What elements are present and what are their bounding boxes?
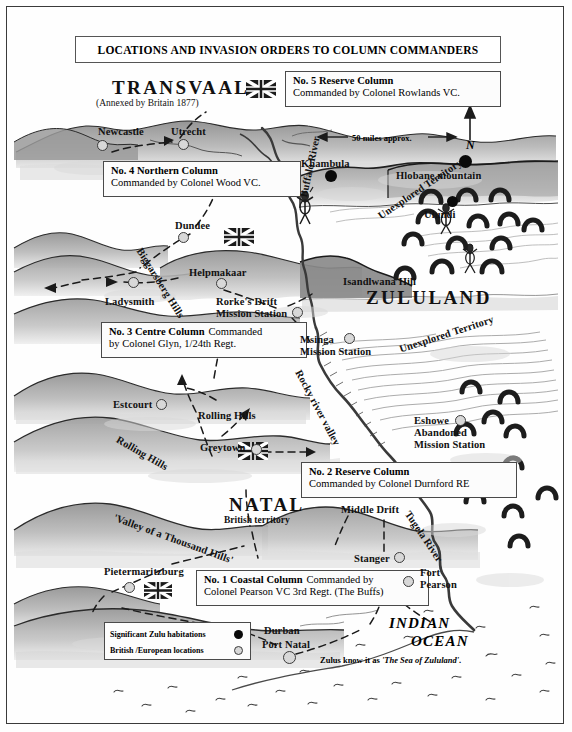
- place-label-ulundi: Ulundi: [424, 209, 456, 220]
- order-box-no5[interactable]: No. 5 Reserve Column Commanded by Colone…: [285, 71, 501, 107]
- place-label-dundee: Dundee: [175, 220, 210, 231]
- order-no2-title: No. 2 Reserve Column: [309, 466, 510, 477]
- place-label-utrecht: Utrecht: [171, 126, 206, 137]
- place-dot-ladysmith[interactable]: [128, 277, 139, 288]
- place-label-stanger: Stanger: [354, 553, 390, 564]
- union-jack-flag-pietermaritzburg: [144, 582, 172, 599]
- region-sublabel-natal: British territory: [224, 516, 290, 526]
- place-dot-dundee[interactable]: [178, 232, 189, 243]
- place-dot-fort-pearson[interactable]: [403, 576, 414, 587]
- place-label-rorkes-drift-line1: Rorke's Drift: [216, 296, 277, 307]
- place-dot-stanger[interactable]: [394, 552, 405, 563]
- place-label-eshowe-line3: Mission Station: [414, 439, 485, 450]
- place-dot-durban[interactable]: [283, 651, 296, 664]
- place-label-msinga-line2: Mission Station: [300, 346, 371, 357]
- place-label-middle-drift: Middle Drift: [341, 504, 399, 515]
- place-label-eshowe-line1: Eshowe: [414, 415, 449, 426]
- legend-symbol-zulu: [230, 630, 246, 639]
- place-dot-pietermaritzburg[interactable]: [124, 582, 135, 593]
- compass-north-label: N: [466, 138, 475, 153]
- legend-dot-british: [234, 646, 243, 655]
- order-no5-title: No. 5 Reserve Column: [293, 75, 494, 86]
- order-no3-title: No. 3 Centre Column: [109, 326, 204, 337]
- place-dot-eshowe[interactable]: [455, 415, 466, 426]
- legend-symbol-british: [230, 646, 246, 655]
- place-label-estcourt: Estcourt: [113, 399, 152, 410]
- invasion-map: LOCATIONS AND INVASION ORDERS TO COLUMN …: [0, 0, 572, 732]
- sea-of-zululand-note: Zulus know it as 'The Sea of Zululand'.: [320, 655, 461, 665]
- place-label-msinga: Msinga Mission Station: [300, 334, 378, 358]
- order-no4-commander: Commanded by Colonel Wood VC.: [111, 177, 294, 188]
- map-legend: Significant Zulu habitations British /Eu…: [104, 622, 251, 660]
- place-label-durban: Durban: [264, 625, 300, 636]
- order-box-no1[interactable]: No. 1 Coastal ColumnCommanded by Colonel…: [196, 570, 429, 606]
- place-label-greytown: Greytown: [200, 442, 246, 453]
- place-dot-rorkes-drift[interactable]: [292, 307, 303, 318]
- order-box-no3[interactable]: No. 3 Centre ColumnCommanded by Colonel …: [101, 322, 307, 358]
- sea-note-suffix: .: [459, 655, 461, 665]
- order-no1-title-tail: Commanded by: [307, 574, 374, 585]
- place-dot-estcourt[interactable]: [156, 399, 167, 410]
- place-dot-helpmakaar[interactable]: [216, 278, 227, 289]
- union-jack-flag-transvaal: [246, 80, 276, 98]
- order-no1-commander: Colonel Pearson VC 3rd Regt. (The Buffs): [204, 586, 422, 597]
- place-label-isandlwana: Isandlwana Hill: [343, 276, 416, 287]
- order-box-no2[interactable]: No. 2 Reserve Column Commanded by Colone…: [301, 462, 517, 498]
- union-jack-flag-natal-north: [224, 228, 254, 246]
- place-label-msinga-line1: Msinga: [300, 334, 334, 345]
- region-label-natal: NATAL: [229, 495, 305, 515]
- legend-row-zulu: Significant Zulu habitations: [110, 626, 246, 642]
- legend-label-zulu: Significant Zulu habitations: [110, 630, 230, 639]
- place-label-rorkes-drift: Rorke's Drift Mission Station: [216, 296, 294, 320]
- place-label-newcastle: Newcastle: [98, 126, 144, 137]
- place-label-fort-pearson-line1: Fort: [420, 567, 440, 578]
- order-box-no4[interactable]: No. 4 Northern Column Commanded by Colon…: [103, 161, 301, 197]
- place-label-pietermaritzburg: Pietermaritzburg: [104, 566, 184, 577]
- region-label-zululand: ZULULAND: [366, 288, 492, 308]
- legend-label-british: British /European locations: [110, 646, 230, 655]
- order-no5-commander: Commanded by Colonel Rowlands VC.: [293, 87, 494, 98]
- ocean-label-line1: INDIAN: [389, 615, 469, 632]
- place-label-rorkes-drift-line2: Mission Station: [216, 308, 287, 319]
- place-dot-khambula[interactable]: [325, 170, 337, 182]
- order-no3-commander: by Colonel Glyn, 1/24th Regt.: [109, 338, 300, 349]
- region-label-transvaal: TRANSVAAL: [112, 78, 249, 98]
- place-label-port-natal: Port Natal: [262, 639, 310, 650]
- order-no3-title-tail: Commanded: [208, 326, 262, 337]
- place-dot-utrecht[interactable]: [178, 139, 189, 150]
- page-title: LOCATIONS AND INVASION ORDERS TO COLUMN …: [98, 44, 479, 56]
- sea-note-name: 'The Sea of Zululand': [382, 655, 459, 665]
- scale-label: 50 miles approx.: [352, 133, 412, 143]
- place-label-eshowe-line2: Abandoned: [414, 427, 467, 438]
- place-dot-msinga[interactable]: [344, 333, 355, 344]
- place-label-eshowe: Eshowe Abandoned Mission Station: [414, 415, 490, 450]
- place-label-helpmakaar: Helpmakaar: [189, 267, 247, 278]
- place-label-fort-pearson: Fort Pearson: [420, 567, 464, 591]
- map-frame: [6, 6, 564, 724]
- sea-note-prefix: Zulus know it as: [320, 655, 382, 665]
- place-dot-greytown[interactable]: [251, 444, 262, 455]
- region-sublabel-transvaal: (Annexed by Britain 1877): [96, 99, 199, 109]
- place-label-fort-pearson-line2: Pearson: [420, 579, 457, 590]
- place-dot-hlobane-south[interactable]: [447, 196, 458, 207]
- feature-label-rolling-hills-1: Rolling Hills: [198, 410, 256, 421]
- place-label-ladysmith: Ladysmith: [105, 296, 154, 307]
- ocean-label: INDIAN OCEAN: [389, 615, 469, 650]
- legend-dot-zulu: [234, 630, 243, 639]
- map-title-box: LOCATIONS AND INVASION ORDERS TO COLUMN …: [75, 36, 501, 63]
- order-no2-commander: Commanded by Colonel Durnford RE: [309, 478, 510, 489]
- order-no4-title: No. 4 Northern Column: [111, 165, 294, 176]
- ocean-label-line2: OCEAN: [411, 633, 469, 650]
- legend-row-british: British /European locations: [110, 642, 246, 658]
- place-dot-newcastle[interactable]: [97, 140, 108, 151]
- order-no1-title: No. 1 Coastal Column: [204, 574, 303, 585]
